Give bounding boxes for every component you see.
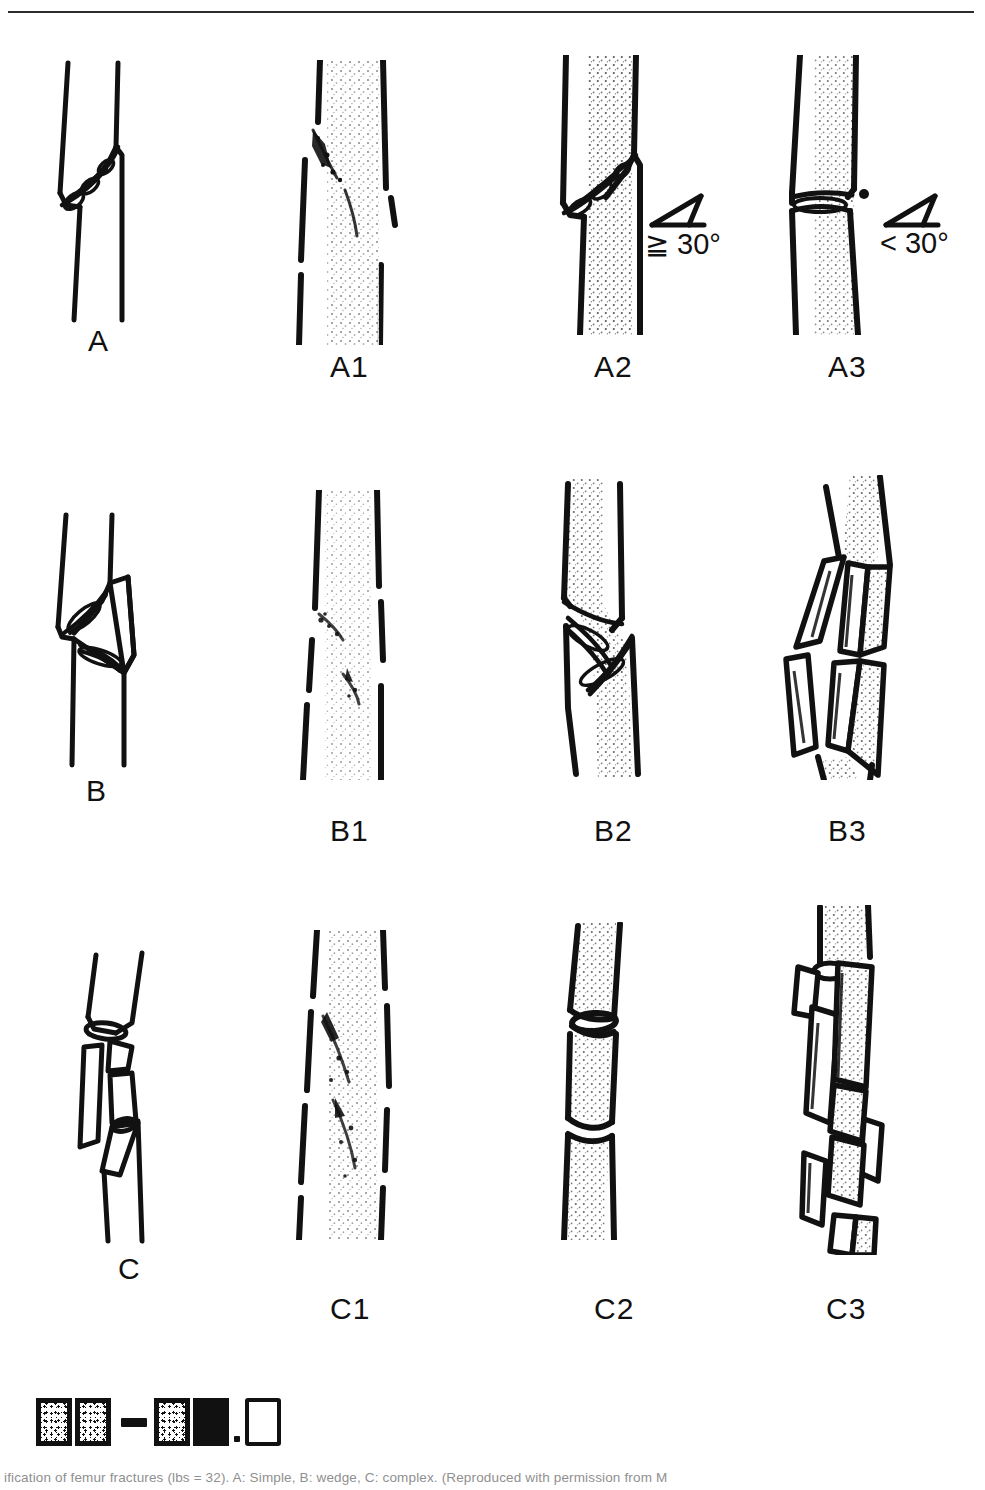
label-C1: C1 bbox=[330, 1292, 370, 1326]
legend-period-mark bbox=[234, 1436, 240, 1442]
legend-open-box bbox=[245, 1398, 281, 1446]
label-C: C bbox=[118, 1252, 141, 1286]
figure-legend bbox=[36, 1398, 284, 1446]
label-A3: A3 bbox=[828, 350, 867, 384]
legend-stipple-box-2 bbox=[75, 1398, 111, 1446]
angle-label-A3: < 30° bbox=[880, 227, 949, 260]
page-top-rule bbox=[8, 11, 974, 13]
label-B2: B2 bbox=[594, 814, 633, 848]
label-A2: A2 bbox=[594, 350, 633, 384]
label-C3: C3 bbox=[826, 1292, 866, 1326]
label-B: B bbox=[86, 774, 107, 808]
legend-stipple-box-1 bbox=[36, 1398, 72, 1446]
panel-C1-illustration bbox=[283, 930, 453, 1240]
label-A: A bbox=[88, 324, 109, 358]
panel-B-illustration bbox=[40, 505, 190, 775]
figure-caption: ification of femur fractures (lbs = 32).… bbox=[4, 1470, 981, 1485]
panel-C3-illustration bbox=[768, 905, 973, 1255]
legend-stipple-box-3 bbox=[154, 1398, 190, 1446]
label-A1: A1 bbox=[330, 350, 369, 384]
panel-A1-illustration bbox=[285, 60, 445, 345]
label-B3: B3 bbox=[828, 814, 867, 848]
panel-C-illustration bbox=[58, 945, 208, 1245]
figure-page: A bbox=[0, 0, 985, 1490]
panel-C2-illustration bbox=[542, 922, 692, 1240]
legend-dash-separator bbox=[121, 1418, 147, 1427]
panel-A-illustration bbox=[30, 55, 180, 325]
panel-B2-illustration bbox=[540, 478, 690, 778]
label-B1: B1 bbox=[330, 814, 369, 848]
label-C2: C2 bbox=[594, 1292, 634, 1326]
legend-solid-box bbox=[193, 1398, 229, 1446]
panel-B3-illustration bbox=[772, 475, 972, 780]
angle-label-A2: ≧ 30° bbox=[645, 227, 721, 261]
panel-B1-illustration bbox=[285, 490, 445, 780]
